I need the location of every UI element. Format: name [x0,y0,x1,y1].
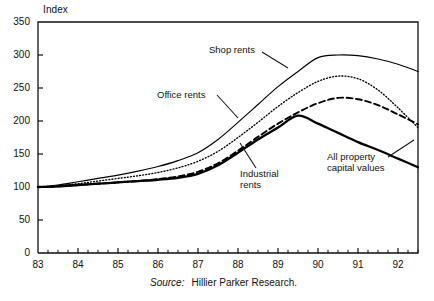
y-tick-label: 300 [4,49,30,60]
annotation-leader-lines [217,52,414,168]
y-tick-label: 50 [4,214,30,225]
y-tick-label: 0 [4,247,30,258]
x-tick-label: 91 [346,259,370,270]
x-tick-label: 90 [306,259,330,270]
source-text: Hillier Parker Research. [184,277,297,288]
y-tick-label: 150 [4,148,30,159]
y-tick-label: 350 [4,16,30,27]
x-tick-label: 85 [106,259,130,270]
leader-line [217,95,238,118]
x-tick-label: 92 [386,259,410,270]
leader-line [262,52,288,68]
y-tick-label: 100 [4,181,30,192]
x-tick-label: 84 [66,259,90,270]
source-note: Source:Hillier Parker Research. [150,277,297,288]
series-label-industrial-rents: Industrial rents [240,169,279,190]
x-tick-label: 89 [266,259,290,270]
series-label-office-rents: Office rents [157,90,205,101]
source-keyword: Source: [150,277,184,288]
y-tick-label: 200 [4,115,30,126]
axis-frame [38,22,418,253]
x-tick-label: 87 [186,259,210,270]
figure-container: Index 050100150200250300350 838485868788… [0,0,434,301]
series-label-all-property-capital-values: All property capital values [327,152,385,173]
y-tick-label: 250 [4,82,30,93]
x-tick-label: 86 [146,259,170,270]
series-label-shop-rents: Shop rents [209,45,255,56]
x-tick-label: 88 [226,259,250,270]
leader-line [388,140,414,157]
x-tick-label: 83 [26,259,50,270]
